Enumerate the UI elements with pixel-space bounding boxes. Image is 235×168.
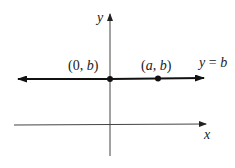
- line-equation-label: y = b: [199, 56, 227, 70]
- point-label-0-b: (0, b): [68, 59, 98, 73]
- point-label-a-b: (a, b): [141, 59, 171, 73]
- x-axis-label: x: [204, 128, 210, 142]
- y-axis-label: y: [97, 11, 103, 25]
- point-0-b: [107, 76, 113, 82]
- point-a-b: [155, 76, 161, 82]
- horizontal-line-diagram: y x (0, b) (a, b) y = b: [0, 0, 235, 168]
- diagram-canvas: [0, 0, 235, 168]
